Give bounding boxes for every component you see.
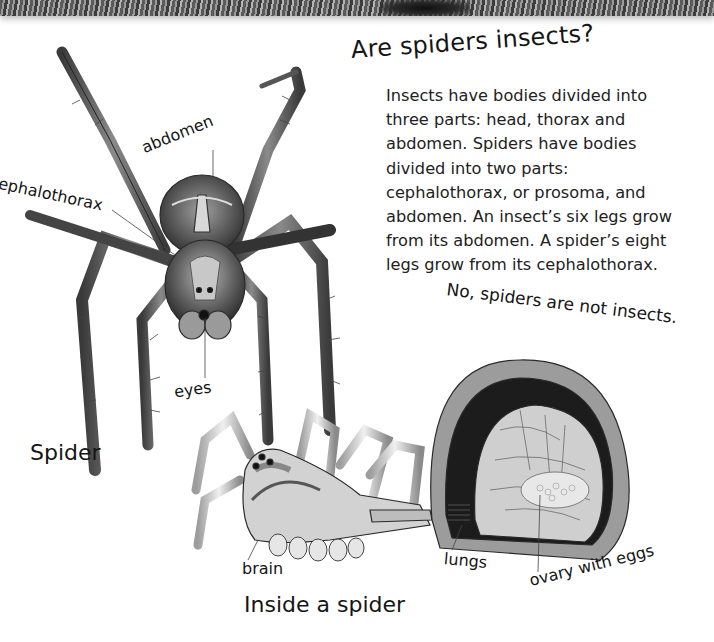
label-brain: brain [242, 559, 283, 578]
spider-drawing [30, 52, 340, 470]
caption-spider: Spider [30, 440, 101, 465]
caption-inside-a-spider: Inside a spider [244, 592, 405, 617]
label-lungs: lungs [443, 549, 488, 572]
book-page: Are spiders insects? Insects have bodies… [0, 0, 714, 642]
body-paragraph: Insects have bodies divided into three p… [386, 84, 686, 278]
